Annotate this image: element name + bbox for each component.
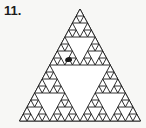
fractal-group bbox=[20, 9, 141, 121]
triangle-cell bbox=[76, 9, 84, 16]
sierpinski-triangle-figure bbox=[0, 0, 146, 128]
page-canvas: 11. bbox=[0, 0, 146, 128]
